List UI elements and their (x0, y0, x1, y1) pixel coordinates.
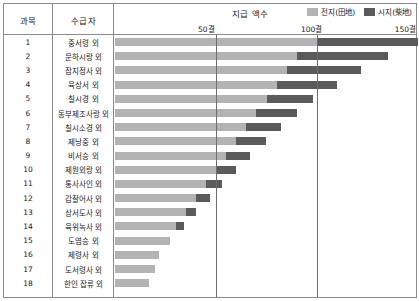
bar-segment-siji (206, 180, 222, 188)
row-index: 1 (4, 35, 52, 49)
row-plot-area (115, 134, 418, 148)
row-index: 17 (4, 262, 52, 276)
stacked-bar (115, 81, 337, 89)
bar-segment-siji (277, 81, 338, 89)
table-row: 6동부제조사랑 외 (4, 106, 416, 120)
stacked-bar (115, 166, 236, 174)
table-header: 과목 수급자 지급 액수 전지(田地) 시지(柴地) 50결 100결 150결 (4, 4, 416, 35)
stacked-bar (115, 251, 159, 259)
row-recipient-label: 육상서 외 (53, 78, 114, 92)
bar-segment-jeonji (115, 109, 256, 117)
row-plot-area (115, 92, 418, 106)
row-recipient-label: 참지정사 외 (53, 63, 114, 77)
row-index: 3 (4, 63, 52, 77)
bar-segment-jeonji (115, 166, 216, 174)
table-row: 18한인 잡류 외 (4, 276, 416, 290)
bar-segment-jeonji (115, 81, 277, 89)
row-index: 18 (4, 276, 52, 290)
row-index: 15 (4, 234, 52, 248)
stacked-bar (115, 180, 222, 188)
table-row: 1중서령 외 (4, 35, 416, 49)
stacked-bar (115, 194, 210, 202)
bar-segment-siji (256, 109, 296, 117)
bar-segment-jeonji (115, 152, 226, 160)
row-index: 16 (4, 248, 52, 262)
bar-segment-jeonji (115, 66, 287, 74)
row-recipient-label: 한인 잡류 외 (53, 276, 114, 290)
land-grant-chart-sheet: 과목 수급자 지급 액수 전지(田地) 시지(柴地) 50결 100결 150결 (0, 0, 419, 301)
row-recipient-label: 제낭중 외 (53, 134, 114, 148)
table-body: 1중서령 외2문하시랑 외3참지정사 외4육상서 외5칠시경 외6동부제조사랑 … (4, 35, 416, 290)
row-index: 9 (4, 149, 52, 163)
table-row: 2문하시랑 외 (4, 49, 416, 63)
table-row: 10제원외랑 외 (4, 163, 416, 177)
row-recipient-label: 비서승 외 (53, 149, 114, 163)
row-plot-area (115, 63, 418, 77)
axis-tick-100: 100결 (301, 23, 322, 34)
stacked-bar (115, 279, 149, 287)
bar-segment-jeonji (115, 208, 186, 216)
bar-segment-siji (216, 166, 236, 174)
row-plot-area (115, 234, 418, 248)
stacked-bar (115, 137, 266, 145)
row-index: 10 (4, 163, 52, 177)
row-recipient-label: 육위녹사 외 (53, 219, 114, 233)
row-index: 8 (4, 134, 52, 148)
stacked-bar (115, 237, 170, 245)
stacked-bar (115, 123, 281, 131)
bar-segment-siji (176, 222, 184, 230)
column-header-recipient: 수급자 (53, 4, 114, 35)
row-plot-area (115, 262, 418, 276)
table-row: 17도서령사 외 (4, 262, 416, 276)
table-row: 14육위녹사 외 (4, 219, 416, 233)
row-recipient-label: 상서도사 외 (53, 205, 114, 219)
bar-segment-jeonji (115, 38, 317, 46)
chart-title: 지급 액수 (232, 7, 268, 19)
table-row: 13상서도사 외 (4, 205, 416, 219)
row-recipient-label: 동부제조사랑 외 (53, 106, 114, 120)
bar-segment-jeonji (115, 123, 246, 131)
axis-tick-labels: 50결 100결 150결 (115, 20, 418, 34)
legend-label: 시지(柴地) (378, 6, 412, 17)
bar-segment-jeonji (115, 95, 267, 103)
stacked-bar (115, 208, 196, 216)
stacked-bar (115, 38, 418, 46)
table-row: 9비서승 외 (4, 149, 416, 163)
stacked-bar (115, 265, 155, 273)
row-index: 4 (4, 78, 52, 92)
chart-legend: 전지(田地) 시지(柴地) (307, 6, 412, 17)
row-recipient-label: 도서령사 외 (53, 262, 114, 276)
row-recipient-label: 통사사인 외 (53, 177, 114, 191)
row-recipient-label: 칠시경 외 (53, 92, 114, 106)
row-plot-area (115, 120, 418, 134)
row-plot-area (115, 163, 418, 177)
row-plot-area (115, 149, 418, 163)
legend-item-jeonji: 전지(田地) (307, 6, 355, 17)
row-plot-area (115, 248, 418, 262)
row-index: 13 (4, 205, 52, 219)
row-plot-area (115, 78, 418, 92)
legend-item-siji: 시지(柴地) (364, 6, 412, 17)
row-plot-area (115, 276, 418, 290)
bar-segment-jeonji (115, 137, 236, 145)
table-frame: 과목 수급자 지급 액수 전지(田地) 시지(柴地) 50결 100결 150결 (3, 3, 417, 298)
table-row: 11통사사인 외 (4, 177, 416, 191)
row-plot-area (115, 191, 418, 205)
bar-segment-siji (246, 123, 280, 131)
table-row: 4육상서 외 (4, 78, 416, 92)
table-row: 7칠시소경 외 (4, 120, 416, 134)
bar-segment-siji (226, 152, 250, 160)
row-index: 11 (4, 177, 52, 191)
stacked-bar (115, 66, 361, 74)
bar-segment-jeonji (115, 237, 170, 245)
bar-segment-siji (297, 52, 388, 60)
row-recipient-label: 문하시랑 외 (53, 49, 114, 63)
row-index: 14 (4, 219, 52, 233)
row-index: 7 (4, 120, 52, 134)
axis-tick-150: 150결 (395, 23, 416, 34)
row-recipient-label: 칠시소경 외 (53, 120, 114, 134)
table-row: 8제낭중 외 (4, 134, 416, 148)
bar-segment-jeonji (115, 222, 176, 230)
legend-swatch-icon (307, 8, 318, 16)
table-row: 3참지정사 외 (4, 63, 416, 77)
